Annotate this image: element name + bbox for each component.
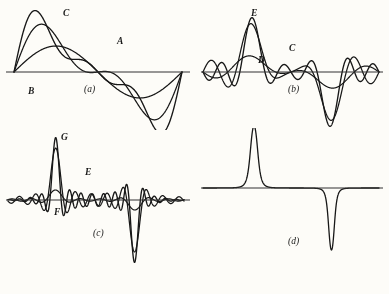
label-a-A: A (117, 36, 123, 46)
caption-b: (b) (288, 84, 299, 94)
panel-c (0, 128, 195, 294)
label-a-C: C (63, 8, 69, 18)
panel-d-plot (195, 128, 389, 294)
panel-c-plot (0, 128, 195, 294)
panel-b-plot (195, 0, 389, 130)
panel-b (195, 0, 389, 130)
waveform-curve (203, 128, 379, 250)
caption-c: (c) (93, 228, 104, 238)
label-a-B: B (28, 86, 34, 96)
caption-a: (a) (84, 84, 95, 94)
panel-a (0, 0, 195, 130)
caption-d: (d) (288, 236, 299, 246)
panel-a-plot (0, 0, 195, 130)
label-b-C: C (289, 43, 295, 53)
label-b-D: D (258, 55, 265, 65)
panel-d (195, 128, 389, 294)
label-b-E: E (251, 8, 257, 18)
figure-root: C A B (a) E C D (b) G E F (c) (d) (0, 0, 389, 294)
label-c-E: E (85, 167, 91, 177)
label-c-F: F (54, 207, 60, 217)
waveform-curve (14, 11, 182, 130)
label-c-G: G (61, 132, 68, 142)
